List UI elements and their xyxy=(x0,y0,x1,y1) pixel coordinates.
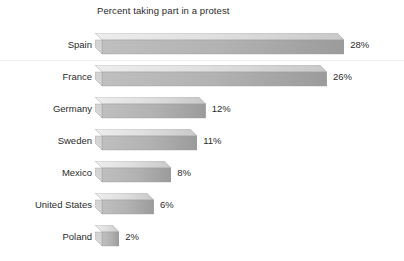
bar-3d-body xyxy=(95,129,197,157)
bar xyxy=(95,65,327,93)
bar-3d-body xyxy=(95,97,206,125)
bar-chart: Percent taking part in a protest Spain28… xyxy=(0,0,404,261)
value-label: 12% xyxy=(212,103,231,114)
category-label: Germany xyxy=(2,103,92,114)
bar xyxy=(95,33,344,61)
bar-row: Spain28% xyxy=(0,31,404,63)
bar-3d-body xyxy=(95,193,154,221)
category-label: Mexico xyxy=(2,167,92,178)
bar-3d-body xyxy=(95,65,327,93)
bar-3d-body xyxy=(95,33,344,61)
bar-3d-body xyxy=(95,225,119,253)
value-label: 28% xyxy=(350,39,369,50)
value-label: 6% xyxy=(160,199,174,210)
bar-row: France26% xyxy=(0,63,404,95)
category-label: Sweden xyxy=(2,135,92,146)
value-label: 11% xyxy=(203,135,221,146)
bar-row: United States6% xyxy=(0,191,404,223)
category-label: Poland xyxy=(2,231,92,242)
bar-3d-body xyxy=(95,161,171,189)
bar-row: Poland2% xyxy=(0,223,404,255)
bar xyxy=(95,97,206,125)
value-label: 26% xyxy=(333,71,352,82)
value-label: 8% xyxy=(177,167,191,178)
bar xyxy=(95,193,154,221)
bar xyxy=(95,225,119,253)
bar-row: Sweden11% xyxy=(0,127,404,159)
bar-row: Mexico8% xyxy=(0,159,404,191)
plot-area: Spain28%France26%Germany12%Sweden11%Mexi… xyxy=(0,0,404,261)
bar xyxy=(95,161,171,189)
category-label: France xyxy=(2,71,92,82)
category-label: United States xyxy=(2,199,92,210)
bar-row: Germany12% xyxy=(0,95,404,127)
value-label: 2% xyxy=(125,231,139,242)
bar xyxy=(95,129,197,157)
category-label: Spain xyxy=(2,39,92,50)
